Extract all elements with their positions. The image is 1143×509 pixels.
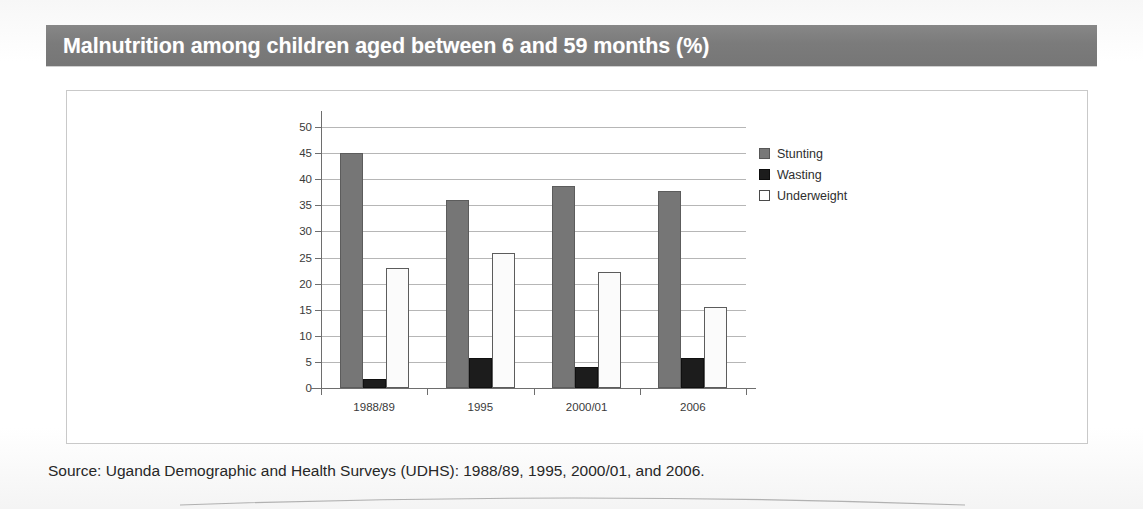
y-tick-label: 30 [299,225,312,237]
x-tick-label: 2006 [680,401,706,413]
legend-label: Wasting [777,168,822,182]
legend-item-stunting: Stunting [759,143,939,164]
x-tick-mark [640,388,641,395]
scan-curve-artifact [0,479,1143,509]
bar-wasting-2006 [681,358,704,388]
bar-wasting-2000-01 [575,367,598,388]
bars-layer [321,127,746,388]
y-tick-label: 35 [299,199,312,211]
x-tick-label: 1995 [468,401,494,413]
legend-swatch-icon [759,190,770,201]
bar-stunting-1988-89 [340,153,363,388]
legend-swatch-icon [759,148,770,159]
chart-title-banner: Malnutrition among children aged between… [46,25,1097,66]
y-tick-label: 50 [299,121,312,133]
plot-wrapper: 05101520253035404550 1988/8919952000/012… [321,119,821,424]
y-tick-label: 25 [299,252,312,264]
legend-item-wasting: Wasting [759,164,939,185]
legend-swatch-icon [759,169,770,180]
legend-label: Stunting [777,147,823,161]
y-tick-label: 20 [299,278,312,290]
y-tick-label: 15 [299,304,312,316]
bar-wasting-1995 [469,358,492,388]
page-root: Malnutrition among children aged between… [0,0,1143,509]
x-tick-mark [746,388,747,395]
bar-wasting-1988-89 [363,379,386,388]
bar-underweight-1995 [492,253,515,388]
x-tick-mark [534,388,535,395]
bar-underweight-2000-01 [598,272,621,388]
bar-stunting-2006 [658,191,681,388]
x-tick-mark [321,388,322,395]
chart-legend: StuntingWastingUnderweight [759,143,939,206]
legend-item-underweight: Underweight [759,185,939,206]
source-note: Source: Uganda Demographic and Health Su… [48,462,705,480]
chart-frame: 05101520253035404550 1988/8919952000/012… [66,90,1088,444]
y-tick-label: 40 [299,173,312,185]
y-tick-label: 10 [299,330,312,342]
page-title: Malnutrition among children aged between… [63,33,709,58]
bar-stunting-1995 [446,200,469,388]
x-tick-mark [427,388,428,395]
x-tick-label: 2000/01 [566,401,608,413]
bar-stunting-2000-01 [552,186,575,388]
legend-label: Underweight [777,189,847,203]
y-tick-label: 45 [299,147,312,159]
bar-underweight-1988-89 [386,268,409,388]
bar-underweight-2006 [704,307,727,388]
y-tick-label: 5 [306,356,312,368]
x-tick-label: 1988/89 [353,401,395,413]
